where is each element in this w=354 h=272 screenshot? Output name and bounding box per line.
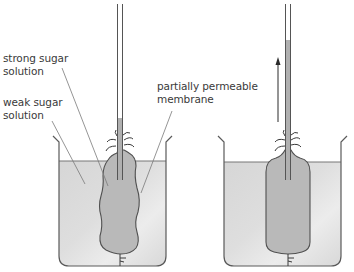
osmosis-diagram: strong sugar solution weak sugar solutio… (0, 0, 354, 272)
label-weak-sugar-solution: weak sugar solution (3, 96, 62, 122)
label-line: strong sugar (3, 52, 68, 65)
tube-liquid-after (286, 40, 291, 180)
label-line: solution (3, 65, 68, 78)
label-strong-sugar-solution: strong sugar solution (3, 52, 68, 78)
beaker-after (218, 4, 347, 266)
label-line: partially permeable (157, 80, 258, 93)
tube-liquid-before (118, 118, 123, 180)
arrow-up-icon (276, 57, 281, 122)
label-line: weak sugar (3, 96, 62, 109)
label-line: solution (3, 109, 62, 122)
label-partially-permeable-membrane: partially permeable membrane (157, 80, 258, 106)
diagram-graphic (0, 0, 354, 272)
label-line: membrane (157, 93, 258, 106)
beaker-before (53, 4, 172, 266)
